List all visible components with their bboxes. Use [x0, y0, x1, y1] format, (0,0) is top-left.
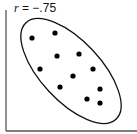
data-point [97, 100, 102, 105]
plot-area [0, 0, 137, 134]
correlation-label: r = −.75 [14, 1, 56, 16]
data-point [70, 73, 75, 78]
data-point [57, 84, 62, 89]
data-point [54, 53, 59, 58]
correlation-ellipse [4, 2, 137, 134]
data-point [37, 66, 42, 71]
data-point [97, 86, 102, 91]
data-point [90, 66, 95, 71]
data-points [29, 30, 102, 105]
scatter-chart: r = −.75 [0, 0, 137, 134]
data-point [84, 96, 89, 101]
data-point [76, 51, 81, 56]
data-point [29, 35, 34, 40]
data-point [52, 30, 57, 35]
